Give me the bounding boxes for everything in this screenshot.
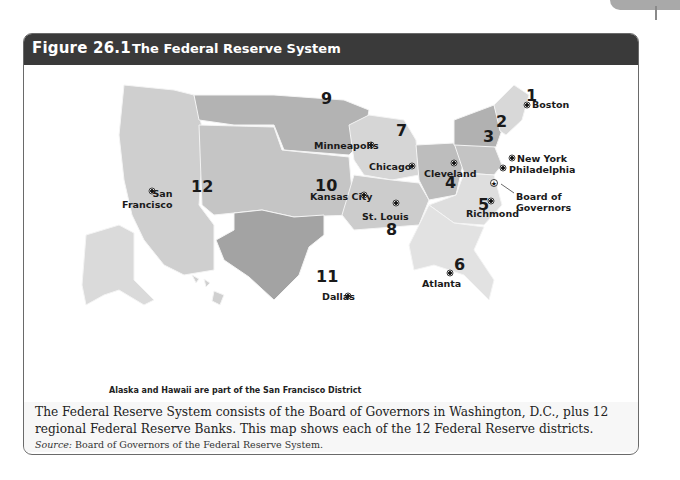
figure-header: Figure 26.1 The Federal Reserve System — [24, 34, 638, 65]
city-label-cleveland: Cleveland — [424, 168, 477, 179]
source-text: Board of Governors of the Federal Reserv… — [72, 439, 323, 450]
city-marker-atlanta — [447, 270, 453, 276]
figure-source: Source: Board of Governors of the Federa… — [35, 439, 323, 450]
city-marker-cleveland — [451, 160, 457, 166]
district-number-7: 7 — [396, 121, 407, 140]
city-label-kansas-city: Kansas City — [310, 191, 373, 202]
city-marker-new-york — [509, 155, 515, 161]
city-label-st-louis: St. Louis — [362, 211, 409, 222]
svg-text:★: ★ — [491, 180, 497, 188]
district-number-6: 6 — [454, 255, 465, 274]
district-number-8: 8 — [386, 220, 397, 239]
board-label-line2: Governors — [516, 202, 571, 213]
section-tab — [610, 0, 680, 10]
district-number-2: 2 — [496, 112, 507, 131]
city-label-richmond: Richmond — [466, 208, 519, 219]
figure-box: Figure 26.1 The Federal Reserve System — [23, 33, 639, 455]
figure-caption: The Federal Reserve System consists of t… — [35, 404, 625, 438]
district-2-region — [454, 105, 502, 147]
city-marker-philadelphia — [500, 165, 506, 171]
city-marker-st-louis — [393, 200, 399, 206]
city-label-new-york: New York — [517, 153, 567, 164]
alaska-hawaii-note: Alaska and Hawaii are part of the San Fr… — [109, 386, 361, 395]
city-label-minneapolis: Minneapolis — [314, 140, 379, 151]
district-11-region — [216, 210, 324, 300]
board-pointer-line — [501, 184, 514, 193]
city-label-atlanta: Atlanta — [422, 278, 461, 289]
city-label-dallas: Dallas — [322, 291, 355, 302]
city-label-san-francisco: San Francisco — [122, 188, 172, 210]
figure-number: Figure 26.1 — [32, 39, 131, 57]
district-number-12: 12 — [191, 177, 213, 196]
board-of-governors-label: Board of Governors — [516, 191, 571, 213]
source-label: Source: — [35, 439, 72, 450]
sf-label-line1: San — [122, 188, 172, 199]
city-label-philadelphia: Philadelphia — [509, 164, 575, 175]
city-label-boston: Boston — [532, 99, 569, 110]
district-number-9: 9 — [321, 89, 332, 108]
fed-district-map: ★ 1 2 3 4 5 6 7 8 9 10 11 12 Boston New … — [24, 65, 638, 365]
district-number-11: 11 — [316, 267, 338, 286]
figure-title: The Federal Reserve System — [132, 41, 341, 56]
board-label-line1: Board of — [516, 191, 571, 202]
us-map-graphic: ★ — [24, 65, 638, 365]
star-icon-board-of-governors: ★ — [491, 180, 498, 189]
district-number-3: 3 — [483, 127, 494, 146]
section-tab-edge — [655, 6, 657, 20]
city-label-chicago: Chicago — [369, 161, 411, 172]
sf-label-line2: Francisco — [122, 199, 172, 210]
hawaii-region — [192, 275, 224, 305]
